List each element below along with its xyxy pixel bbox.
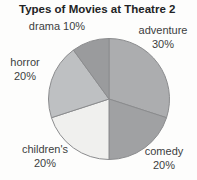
slice-label-horror: horror 20% <box>0 56 50 83</box>
slice-name-adventure: adventure <box>130 24 196 38</box>
slice-label-comedy: comedy 20% <box>132 145 196 172</box>
slice-pct-comedy: 20% <box>132 159 196 173</box>
slice-pct-adventure: 30% <box>130 38 196 52</box>
slice-name-comedy: comedy <box>132 145 196 159</box>
slice-label-adventure: adventure 30% <box>130 24 196 51</box>
slice-label-childrens: children's 20% <box>6 143 84 170</box>
slice-name-horror: horror <box>0 56 50 70</box>
slice-label-drama: drama 10% <box>16 20 98 34</box>
slice-pct-horror: 20% <box>0 70 50 84</box>
slice-pct-childrens: 20% <box>6 157 84 171</box>
slice-name-drama: drama <box>29 20 60 32</box>
slice-pct-drama: 10% <box>63 20 85 32</box>
pie-chart-figure: Types of Movies at Theatre 2 drama 10% a… <box>0 0 197 180</box>
slice-name-childrens: children's <box>6 143 84 157</box>
